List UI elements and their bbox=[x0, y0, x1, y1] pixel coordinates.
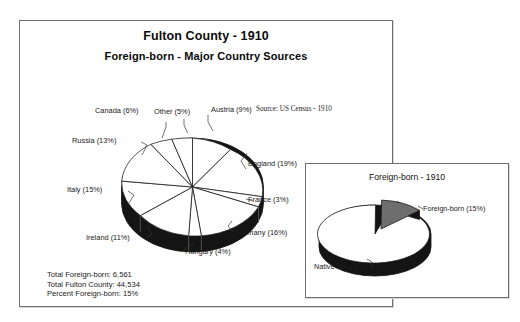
label-native-born: Native-born (85%) bbox=[314, 262, 372, 271]
callout-france: France (3%) bbox=[246, 195, 289, 204]
label-austria: Austria (9%) bbox=[211, 105, 252, 114]
stat-percent-foreign-born: Percent Foreign-born: 15% bbox=[47, 289, 140, 299]
label-germany: Germany (16%) bbox=[235, 228, 287, 237]
callout-england: England (19%) bbox=[241, 153, 297, 169]
callout-russia: Russia (13%) bbox=[72, 136, 147, 155]
label-hungary: Hungary (4%) bbox=[185, 247, 231, 256]
label-ireland: Ireland (11%) bbox=[86, 233, 130, 242]
foreign-vs-native-pie-chart: Foreign-born (15%) Native-born (85%) bbox=[306, 164, 508, 297]
label-russia: Russia (13%) bbox=[72, 136, 116, 145]
label-other: Other (5%) bbox=[154, 107, 190, 116]
callout-other: Other (5%) bbox=[154, 107, 190, 133]
label-france: France (3%) bbox=[248, 195, 289, 204]
stat-total-foreign-born: Total Foreign-born: 6,561 bbox=[47, 270, 140, 280]
source-note: Source: US Census - 1910 bbox=[256, 105, 386, 113]
stat-total-county: Total Fulton County: 44,534 bbox=[47, 280, 140, 290]
screenshot-root: Fulton County - 1910 Foreign-born - Majo… bbox=[0, 0, 520, 322]
label-canada: Canada (6%) bbox=[95, 106, 139, 115]
inset-chart-panel: Foreign-born - 1910 Foreign-born (15%) bbox=[305, 163, 509, 298]
statistics-block: Total Foreign-born: 6,561 Total Fulton C… bbox=[47, 270, 140, 299]
label-italy: Italy (15%) bbox=[67, 185, 102, 194]
callout-austria: Austria (9%) bbox=[208, 105, 252, 131]
label-foreign-born: Foreign-born (15%) bbox=[423, 204, 485, 213]
callout-foreign-born: Foreign-born (15%) bbox=[418, 204, 485, 213]
label-england: England (19%) bbox=[248, 159, 297, 168]
